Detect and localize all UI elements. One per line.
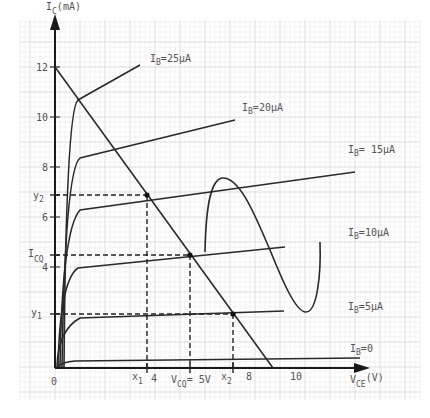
x2-label: x2 — [221, 371, 232, 386]
q-point — [187, 252, 192, 257]
origin-label: 0 — [51, 376, 57, 387]
y-axis-label: IC(mA) — [46, 1, 81, 16]
x1-label: x1 — [132, 371, 143, 386]
x-tick-4: 4 — [151, 373, 157, 384]
y-tick-10: 10 — [36, 112, 48, 123]
point-y2 — [144, 192, 149, 197]
y1-label: y1 — [31, 307, 42, 321]
label-ib-5: IB=5μA — [348, 301, 383, 315]
icq-label: ICQ — [28, 248, 44, 264]
x-tick-10: 10 — [290, 371, 302, 382]
x-axis-label: VCE(V) — [350, 372, 384, 389]
curve-ib-15 — [60, 172, 355, 367]
ib-curves — [57, 65, 360, 367]
curve-ib-0 — [57, 358, 360, 367]
label-ib-10: IB=10μA — [348, 227, 389, 241]
x-tick-8: 8 — [246, 371, 252, 382]
point-y1 — [230, 311, 235, 316]
y-tick-6: 6 — [42, 212, 48, 223]
label-ib-0: IB=0 — [350, 343, 373, 357]
diagram-canvas: IC(mA) VCE(V) 0 12 10 8 6 4 4 8 10 y2 IC… — [0, 0, 430, 418]
label-ib-20: IB=20μA — [242, 102, 283, 116]
transistor-characteristics-diagram: IC(mA) VCE(V) 0 12 10 8 6 4 4 8 10 y2 IC… — [0, 0, 430, 418]
y-tick-8: 8 — [42, 162, 48, 173]
y-tick-12: 12 — [36, 62, 48, 73]
